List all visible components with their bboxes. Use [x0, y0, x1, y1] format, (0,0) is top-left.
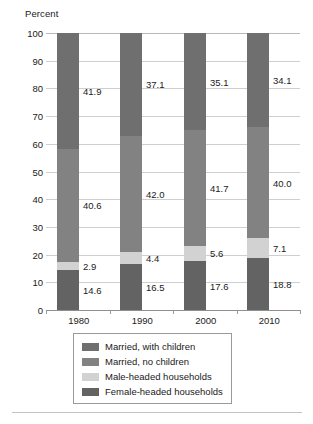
- value-label-1990-3: 4.4: [146, 253, 159, 264]
- legend-item-2[interactable]: Married, no children: [82, 354, 231, 369]
- x-tick-label-2010: 2010: [246, 315, 292, 326]
- value-label-2010-1: 34.1: [273, 75, 292, 86]
- x-tick-mark-edge-0: [46, 310, 47, 314]
- value-label-2000-3: 5.6: [210, 248, 223, 259]
- footer-divider: [12, 412, 302, 413]
- bar-1980[interactable]: 14.62.940.641.9: [57, 33, 79, 310]
- legend-label-1: Married, with children: [105, 342, 195, 352]
- y-tick-label-20: 20: [3, 249, 43, 260]
- chart-legend: Married, with childrenMarried, no childr…: [73, 333, 232, 404]
- x-tick-mark-edge-1: [300, 310, 301, 314]
- value-label-2000-4: 17.6: [210, 280, 229, 291]
- legend-swatch-icon-3: [82, 373, 99, 381]
- value-label-1980-3: 2.9: [83, 260, 96, 271]
- x-tick-label-1990: 1990: [119, 315, 165, 326]
- bar-segment-2000-1[interactable]: [184, 33, 206, 130]
- value-label-2010-3: 7.1: [273, 243, 286, 254]
- x-tick-mark-1: [110, 310, 111, 314]
- y-tick-label-30: 30: [3, 221, 43, 232]
- bar-segment-2010-1[interactable]: [247, 33, 269, 127]
- legend-swatch-icon-4: [82, 388, 99, 396]
- y-tick-label-0: 0: [3, 305, 43, 316]
- legend-label-2: Married, no children: [105, 357, 189, 367]
- x-tick-label-1980: 1980: [56, 315, 102, 326]
- value-label-2000-1: 35.1: [210, 76, 229, 87]
- y-tick-label-90: 90: [3, 55, 43, 66]
- y-tick-label-80: 80: [3, 83, 43, 94]
- y-tick-label-40: 40: [3, 194, 43, 205]
- bar-2000[interactable]: 17.65.641.735.1: [184, 33, 206, 310]
- bar-segment-1990-4[interactable]: [120, 264, 142, 310]
- bar-segment-1980-3[interactable]: [57, 262, 79, 270]
- bar-segment-1990-1[interactable]: [120, 33, 142, 136]
- legend-swatch-icon-2: [82, 358, 99, 366]
- value-label-1990-1: 37.1: [146, 79, 165, 90]
- y-tick-label-60: 60: [3, 138, 43, 149]
- bar-segment-1990-3[interactable]: [120, 252, 142, 264]
- x-tick-label-2000: 2000: [183, 315, 229, 326]
- legend-item-3[interactable]: Male-headed households: [82, 369, 231, 384]
- legend-label-3: Male-headed households: [105, 372, 212, 382]
- legend-label-4: Female-headed households: [105, 387, 223, 397]
- value-label-1990-4: 16.5: [146, 282, 165, 293]
- bar-segment-2000-2[interactable]: [184, 130, 206, 246]
- legend-item-4[interactable]: Female-headed households: [82, 384, 231, 399]
- y-tick-label-50: 50: [3, 166, 43, 177]
- value-label-2010-4: 18.8: [273, 278, 292, 289]
- bar-segment-2010-2[interactable]: [247, 127, 269, 238]
- y-axis-tick-labels: 1009080706050403020100: [0, 33, 43, 310]
- value-label-1980-2: 40.6: [83, 200, 102, 211]
- y-axis-title: Percent: [25, 8, 58, 19]
- value-label-1980-4: 14.6: [83, 284, 102, 295]
- bar-segment-1990-2[interactable]: [120, 136, 142, 252]
- value-label-2000-2: 41.7: [210, 182, 229, 193]
- bar-2010[interactable]: 18.87.140.034.1: [247, 33, 269, 310]
- stacked-bar-chart: Percent 1009080706050403020100 14.62.940…: [0, 0, 313, 424]
- bar-segment-2010-3[interactable]: [247, 238, 269, 258]
- legend-item-1[interactable]: Married, with children: [82, 339, 231, 354]
- value-label-1990-2: 42.0: [146, 188, 165, 199]
- bar-segment-1980-1[interactable]: [57, 33, 79, 149]
- bar-segment-1980-2[interactable]: [57, 149, 79, 261]
- x-tick-mark-3: [237, 310, 238, 314]
- y-tick-label-100: 100: [3, 28, 43, 39]
- value-label-2010-2: 40.0: [273, 177, 292, 188]
- value-label-1980-1: 41.9: [83, 86, 102, 97]
- y-tick-label-10: 10: [3, 277, 43, 288]
- plot-area: 14.62.940.641.916.54.442.037.117.65.641.…: [46, 33, 300, 310]
- bar-segment-1980-4[interactable]: [57, 270, 79, 310]
- bar-segment-2000-3[interactable]: [184, 246, 206, 262]
- legend-swatch-icon-1: [82, 343, 99, 351]
- y-tick-label-70: 70: [3, 111, 43, 122]
- x-tick-mark-2: [173, 310, 174, 314]
- bar-segment-2000-4[interactable]: [184, 261, 206, 310]
- bar-segment-2010-4[interactable]: [247, 258, 269, 310]
- bar-1990[interactable]: 16.54.442.037.1: [120, 33, 142, 310]
